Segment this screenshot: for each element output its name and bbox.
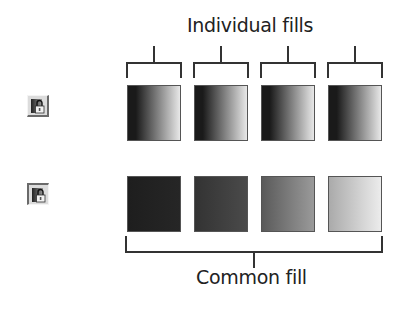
individual-bracket-right [381,62,383,78]
common-fill-swatch [261,176,315,232]
common-fill-swatch [194,176,248,232]
individual-bracket-tick [153,46,155,63]
lock-gradient-icon [29,97,47,115]
individual-bracket-left [126,62,128,78]
individual-fill-swatch [328,85,382,141]
individual-bracket-tick [287,46,289,63]
common-fill-button[interactable] [27,183,49,205]
individual-bracket-left [327,62,329,78]
common-fill-swatch [127,176,181,232]
lock-gradient-icon [30,186,48,204]
common-fill-swatch [328,176,382,232]
individual-fill-swatch [194,85,248,141]
individual-bracket-right [180,62,182,78]
common-bracket-tick [253,252,255,268]
individual-fills-label: Individual fills [187,14,313,36]
individual-fill-swatch [127,85,181,141]
individual-bracket-right [247,62,249,78]
individual-fills-button[interactable] [27,95,49,117]
individual-bracket-tick [220,46,222,63]
individual-bracket-left [193,62,195,78]
individual-bracket-left [260,62,262,78]
common-fill-label: Common fill [196,266,307,288]
individual-bracket-tick [354,46,356,63]
individual-fill-swatch [261,85,315,141]
individual-bracket-right [314,62,316,78]
